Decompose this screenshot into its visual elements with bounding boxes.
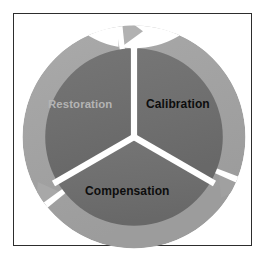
segment-label-compensation: Compensation — [85, 185, 170, 197]
diagram-canvas: Restoration Calibration Compensation — [0, 0, 266, 260]
segment-label-calibration: Calibration — [146, 98, 210, 110]
cycle-diagram — [0, 0, 266, 260]
segment-label-restoration: Restoration — [48, 99, 112, 110]
